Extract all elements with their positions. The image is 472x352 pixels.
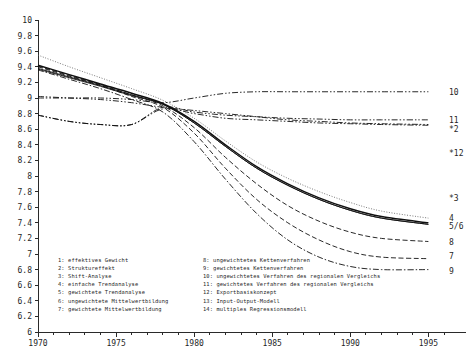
legend-item-left-3: 3: Shift-Analyse (58, 273, 112, 280)
series-end-label-7: 7 (449, 252, 454, 261)
legend-item-right-10: 10: ungewichtetes Verfahren des regional… (203, 273, 380, 280)
x-axis-tick-label: 1975 (106, 339, 125, 348)
y-axis-tick-label: 6 (27, 328, 32, 337)
y-axis-tick-label: 6.8 (18, 266, 33, 275)
y-axis-tick-label: 8 (27, 172, 32, 181)
series-end-label-10: 10 (449, 88, 459, 97)
y-axis-tick-label: 8.4 (18, 141, 33, 150)
series-end-label-2: *2 (449, 125, 459, 134)
y-axis-tick-label: 9.4 (18, 63, 33, 72)
legend-item-left-7: 7: gewichtete Mittelwertbildung (58, 306, 162, 313)
legend-item-right-13: 13: Input-Output-Modell (203, 298, 280, 305)
legend-item-right-11: 11: gewichtetes Verfahren des regionalen… (203, 281, 374, 288)
x-axis-tick-label: 1985 (263, 339, 282, 348)
legend-item-left-1: 1: effektives Gewicht (58, 257, 128, 263)
y-axis-tick-label: 8.6 (18, 125, 33, 134)
x-axis-tick-label: 1970 (28, 339, 47, 348)
y-axis-tick-label: 9.6 (18, 47, 33, 56)
series-end-label-3: *3 (449, 194, 459, 203)
y-axis-tick-label: 8.8 (18, 110, 33, 119)
legend-item-left-4: 4: einfache Trendanalyse (58, 281, 138, 288)
y-axis-tick-label: 9.8 (18, 32, 33, 41)
series-end-label-8: 8 (449, 238, 454, 247)
series-end-label-12: *12 (449, 149, 464, 158)
series-end-label-11: 11 (449, 116, 459, 125)
y-axis-tick-label: 7 (27, 250, 32, 259)
legend-item-right-9: 9: gewichtetes Kettenverfahren (203, 265, 303, 272)
legend-item-right-14: 14: multiples Regressionsmodell (203, 306, 307, 313)
legend-item-right-8: 8: ungewichtetes Kettenverfahren (203, 257, 310, 264)
legend-item-left-6: 6: ungewichtete Mittelwertbildung (58, 298, 168, 305)
y-axis-tick-label: 7.4 (18, 219, 33, 228)
y-axis-tick-label: 6.4 (18, 297, 33, 306)
line-chart: 109.89.69.49.298.88.68.48.287.87.67.47.2… (0, 0, 472, 352)
y-axis-tick-label: 7.8 (18, 188, 33, 197)
y-axis-tick-label: 8.2 (18, 156, 33, 165)
y-axis-tick-label: 7.6 (18, 203, 33, 212)
series-end-label-9: 9 (449, 267, 454, 276)
y-axis-tick-label: 7.2 (18, 234, 33, 243)
y-axis-tick-label: 10 (22, 16, 32, 25)
chart-container: 109.89.69.49.298.88.68.48.287.87.67.47.2… (0, 0, 472, 352)
y-axis-tick-label: 6.2 (18, 312, 33, 321)
series-end-label-56: 5/6 (449, 222, 464, 231)
x-axis-tick-label: 1990 (341, 339, 360, 348)
y-axis-tick-label: 9.2 (18, 78, 33, 87)
legend-item-left-5: 5: gewichtete Trendanalyse (58, 289, 145, 296)
y-axis-tick-label: 6.6 (18, 281, 33, 290)
legend-item-left-2: 2: Struktureffekt (58, 265, 115, 271)
x-axis-tick-label: 1995 (419, 339, 438, 348)
x-axis-tick-label: 1980 (185, 339, 204, 348)
y-axis-tick-label: 9 (27, 94, 32, 103)
legend-item-right-12: 12: Exportbasiskonzept (203, 289, 277, 296)
